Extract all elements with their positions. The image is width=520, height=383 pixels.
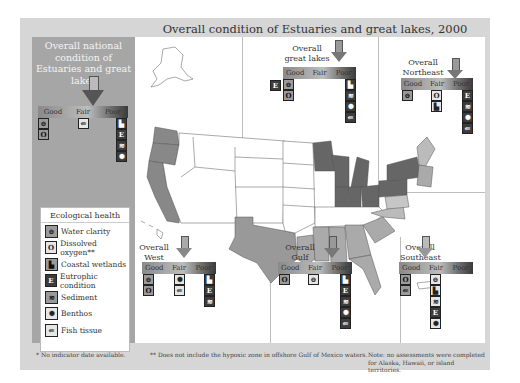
gulf-scale: GoodFairPoor [278,262,352,274]
sediment-icon: ≋ [204,296,215,307]
benthos-icon: ✺ [340,307,351,318]
sediment-icon: ≋ [462,101,473,112]
sediment-icon: ≋ [45,291,58,304]
sediment-icon: ≋ [430,296,441,307]
national-panel-title: Overall national condition of Estuaries … [32,40,135,86]
dissolved-oxygen-icon: O [400,274,411,285]
coastal-wetlands-icon: ▙ [345,79,356,90]
west-scale: GoodFairPoor [142,262,216,274]
fish-tissue-icon: ⇚ [174,285,185,296]
eutrophic-condition-icon: E [270,80,281,91]
water-clarity-icon: ⊖ [38,118,49,129]
legend-item: ODissolved oxygen** [41,240,129,257]
sediment-icon: ≋ [345,90,356,101]
fish-tissue-icon: ⇚ [78,118,89,129]
fish-tissue-icon: ⇚ [340,318,351,329]
southeast-scale: GoodFairPoor [399,262,473,274]
national-fair-column: ⇚ [78,118,89,129]
eutrophic-condition-icon: E [204,285,215,296]
sediment-icon: ≋ [340,296,351,307]
legend-item: ⊖Water clarity [41,223,129,240]
benthos-icon: ✺ [462,112,473,123]
water-clarity-icon: ⊖ [308,274,319,285]
scale-good: Good [38,106,68,118]
gulf-label: Overall Gulf [284,243,316,262]
benthos-icon: ✺ [45,307,58,320]
coastal-wetlands-icon: ▙ [431,101,442,112]
dissolved-oxygen-icon: O [45,241,57,254]
dissolved-oxygen-icon: O [283,90,294,101]
great-lakes-label: Overall great lakes [282,44,332,63]
fish-tissue-icon: ⇚ [45,324,58,337]
west-label: Overall West [138,243,170,262]
legend-item: EEutrophic condition [41,273,129,290]
water-clarity-icon: ⊖ [143,274,154,285]
scale-poor: Poor [98,106,128,118]
dissolved-oxygen-icon: O [143,285,154,296]
legend-item: ≋Sediment [41,289,129,306]
fish-tissue-icon: ⇚ [345,112,356,123]
legend-item: ⇚Fish tissue [41,322,129,339]
scale-fair: Fair [68,106,98,118]
coastal-wetlands-icon: ▙ [430,285,441,296]
national-poor-column: ▙ E ≋ ✺ [116,118,127,162]
dissolved-oxygen-icon: O [279,274,290,285]
coastal-wetlands-icon: ▙ [116,118,127,129]
eutrophic-condition-icon: E [45,274,57,287]
water-clarity-icon: ⊖ [402,90,413,101]
national-scale: Good Fair Poor [38,106,128,118]
benthos-icon: ✺ [174,274,185,285]
eutrophic-condition-icon: E [430,307,441,318]
figure-title: Overall condition of Estuaries and great… [140,22,490,36]
footnote-no-data: * No indicator date available. [36,351,125,359]
water-clarity-icon: ⊖ [430,274,441,285]
coastal-wetlands-icon: ▙ [45,258,58,271]
great-lakes-scale: GoodFairPoor [283,67,356,79]
legend-item: ▙Coastal wetlands [41,256,129,273]
northeast-scale: GoodFairPoor [401,78,473,90]
eutrophic-condition-icon: E [116,129,127,140]
dissolved-oxygen-icon: O [38,129,49,140]
benthos-icon: ✺ [345,101,356,112]
benthos-icon: ✺ [430,318,441,329]
fish-tissue-icon: ⇚ [462,123,473,134]
footnote-note: Note: no assessments were completed for … [368,351,488,374]
footnote-hypoxic: ** Does not include the hypoxic zone in … [150,351,367,359]
water-clarity-icon: ⊖ [283,79,294,90]
sediment-icon: ≋ [116,140,127,151]
legend-item: ✺Benthos [41,306,129,323]
state-alaska [151,47,193,87]
coastal-wetlands-icon: ▙ [340,274,351,285]
eutrophic-condition-icon: E [462,90,473,101]
national-arrow-head-icon [82,90,104,106]
national-good-column: ⊖ O [38,118,49,140]
legend: Ecological health ⊖Water clarity ODissol… [40,207,130,352]
eutrophic-condition-icon: E [340,285,351,296]
northeast-label: Overall Northeast [398,58,448,77]
legend-title: Ecological health [41,208,129,223]
dissolved-oxygen-icon: O [431,90,442,101]
coastal-wetlands-icon: ▙ [204,274,215,285]
water-clarity-icon: ⊖ [45,225,58,238]
fish-tissue-icon: ⇚ [400,285,411,296]
benthos-icon: ✺ [116,151,127,162]
